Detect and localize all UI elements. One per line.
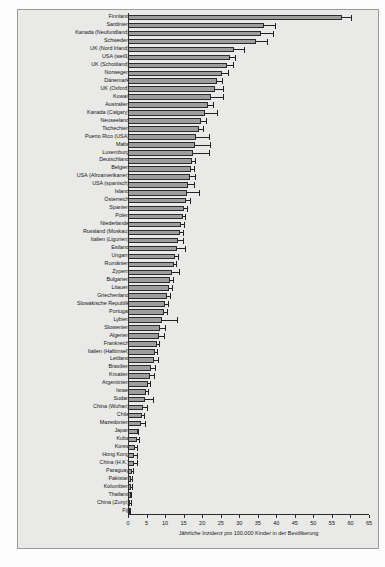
bar <box>128 118 201 124</box>
bar <box>128 301 165 307</box>
error-bar-cap <box>187 206 188 212</box>
error-bar-cap <box>131 500 132 506</box>
x-axis-tick-label: 0 <box>126 520 129 526</box>
error-bar-line <box>256 41 267 42</box>
x-axis-tick-label: 35 <box>255 520 261 526</box>
error-bar-cap <box>165 325 166 331</box>
bar <box>128 293 167 299</box>
x-axis-tick-label: 15 <box>181 520 187 526</box>
bar <box>128 238 178 244</box>
error-bar-cap <box>222 78 223 84</box>
error-bar-cap <box>148 389 149 395</box>
error-bar-cap <box>190 198 191 204</box>
error-bar-cap <box>133 468 134 474</box>
error-bar-cap <box>184 222 185 228</box>
bar <box>128 437 137 443</box>
error-bar-line <box>177 248 186 249</box>
error-bar-cap <box>153 397 154 403</box>
bar <box>128 309 164 315</box>
error-bar-cap <box>273 31 274 37</box>
bar <box>128 190 187 196</box>
bar <box>128 214 183 220</box>
error-bar-cap <box>194 166 195 172</box>
bar <box>128 349 155 355</box>
error-bar-line <box>145 399 153 400</box>
error-bar-cap <box>223 86 224 92</box>
error-bar-cap <box>167 309 168 315</box>
error-bar-line <box>342 17 352 18</box>
error-bar-cap <box>144 413 145 419</box>
error-bar-cap <box>178 254 179 260</box>
bar <box>128 277 170 283</box>
bar <box>128 39 256 45</box>
bar <box>128 198 186 204</box>
error-bar-line <box>195 145 210 146</box>
x-axis-tick <box>350 515 351 518</box>
error-bar-line <box>234 49 244 50</box>
error-bar-cap <box>195 174 196 180</box>
bar <box>128 246 177 252</box>
bar <box>128 333 159 339</box>
x-axis-tick <box>313 515 314 518</box>
x-axis-tick-label: 20 <box>199 520 205 526</box>
bar <box>128 166 191 172</box>
bar <box>128 381 148 387</box>
x-axis-tick-label: 10 <box>162 520 168 526</box>
error-bar-cap <box>235 55 236 61</box>
error-bar-cap <box>172 285 173 291</box>
error-bar-cap <box>183 238 184 244</box>
bar <box>128 405 143 411</box>
bar <box>128 47 234 53</box>
bar <box>128 15 342 21</box>
bar <box>128 254 175 260</box>
error-bar-cap <box>179 269 180 275</box>
bar <box>128 365 151 371</box>
bar <box>128 55 230 61</box>
error-bar-cap <box>183 230 184 236</box>
plot-area: FinnlandSardinienKanada (Neufundland)Sch… <box>0 0 385 567</box>
x-axis-tick <box>332 515 333 518</box>
bar <box>128 222 181 228</box>
error-bar-line <box>205 113 216 114</box>
error-bar-cap <box>170 293 171 299</box>
error-bar-cap <box>195 158 196 164</box>
bar <box>128 31 261 37</box>
x-axis-tick-label: 5 <box>145 520 148 526</box>
error-bar-cap <box>159 341 160 347</box>
error-bar-line <box>215 89 223 90</box>
error-bar-cap <box>137 453 138 459</box>
error-bar-cap <box>173 277 174 283</box>
bar <box>128 317 162 323</box>
error-bar-cap <box>137 445 138 451</box>
bar <box>128 134 196 140</box>
error-bar-line <box>187 192 199 193</box>
x-axis-tick <box>165 515 166 518</box>
bar <box>128 150 193 156</box>
error-bar-cap <box>185 246 186 252</box>
error-bar-cap <box>137 460 138 466</box>
x-axis-tick <box>147 515 148 518</box>
error-bar-line <box>172 272 179 273</box>
bar <box>128 325 160 331</box>
bar <box>128 86 215 92</box>
x-axis-tick-label: 65 <box>366 520 372 526</box>
bar <box>128 206 184 212</box>
error-bar-cap <box>213 102 214 108</box>
error-bar-cap <box>154 373 155 379</box>
error-bar-cap <box>209 134 210 140</box>
bar <box>128 182 188 188</box>
x-axis-tick <box>202 515 203 518</box>
x-axis-tick-label: 60 <box>347 520 353 526</box>
bar <box>128 102 208 108</box>
bar <box>128 78 217 84</box>
bar <box>128 429 138 435</box>
error-bar-cap <box>223 94 224 100</box>
error-bar-cap <box>132 484 133 490</box>
error-bar-cap <box>138 429 139 435</box>
error-bar-cap <box>139 437 140 443</box>
error-bar-line <box>261 33 273 34</box>
error-bar-cap <box>132 476 133 482</box>
error-bar-cap <box>351 15 352 21</box>
error-bar-cap <box>145 421 146 427</box>
error-bar-cap <box>177 317 178 323</box>
